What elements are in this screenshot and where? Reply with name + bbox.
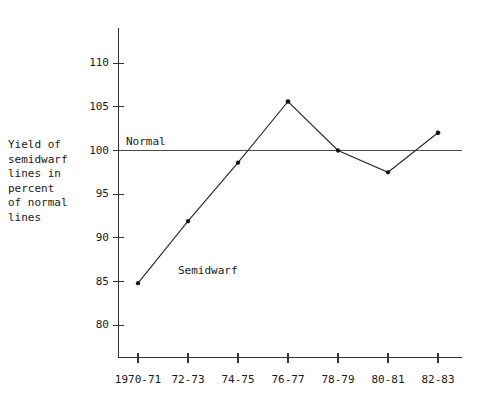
y-tick-label: 105 — [89, 100, 109, 113]
data-point — [336, 149, 340, 153]
y-axis-tick-labels: 110 105 100 95 90 85 80 — [89, 56, 109, 331]
x-tick-label: 78-79 — [321, 373, 354, 386]
data-point — [136, 281, 140, 285]
data-point — [436, 131, 440, 135]
normal-reference-label: Normal — [126, 135, 166, 148]
data-point — [386, 170, 390, 174]
x-tick-label: 80-81 — [371, 373, 404, 386]
x-axis-tick-labels: 1970-71 72-73 74-75 76-77 78-79 80-81 82… — [115, 373, 455, 386]
data-point — [236, 161, 240, 165]
y-tick-label: 80 — [96, 318, 109, 331]
y-tick-label: 110 — [89, 56, 109, 69]
data-point — [286, 99, 290, 103]
x-tick-label: 72-73 — [171, 373, 204, 386]
y-tick-label: 100 — [89, 144, 109, 157]
x-tick-label: 76-77 — [271, 373, 304, 386]
line-chart-canvas: 110 105 100 95 90 85 80 1970-71 72-73 74… — [0, 0, 483, 400]
y-tick-label: 90 — [96, 231, 109, 244]
x-tick-label: 82-83 — [421, 373, 454, 386]
semidwarf-series-line — [138, 102, 438, 284]
semidwarf-data-points — [136, 99, 440, 285]
y-tick-label: 85 — [96, 275, 109, 288]
x-tick-label: 74-75 — [221, 373, 254, 386]
y-tick-label: 95 — [96, 187, 109, 200]
data-point — [186, 219, 190, 223]
semidwarf-series-annotation: Semidwarf — [178, 264, 238, 277]
chart-figure: Yield of semidwarf lines in percent of n… — [0, 0, 483, 400]
x-tick-label: 1970-71 — [115, 373, 161, 386]
